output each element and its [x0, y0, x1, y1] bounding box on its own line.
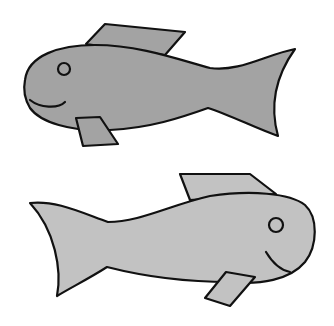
- top-fish: [24, 24, 295, 146]
- bottom-fish: [30, 174, 315, 306]
- eye-icon: [269, 218, 283, 232]
- eye-icon: [58, 63, 70, 75]
- fish-illustration: [0, 0, 334, 326]
- fish-body: [30, 193, 315, 296]
- fish-body: [24, 45, 295, 136]
